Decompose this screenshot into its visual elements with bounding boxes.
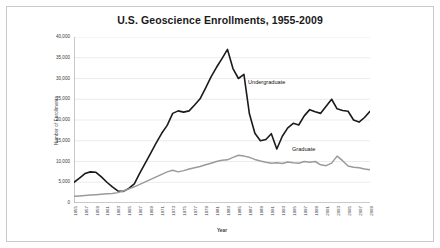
- x-tick-label: 1969: [150, 206, 154, 216]
- x-tick-label: 1981: [216, 206, 220, 216]
- y-tick-label: 30,000: [56, 76, 70, 81]
- x-tick-label: 1985: [238, 206, 242, 216]
- y-tick-label: 20,000: [56, 118, 70, 123]
- x-tick-label: 2009: [369, 206, 373, 216]
- x-tick-label: 1991: [271, 206, 275, 216]
- data-series-group: [74, 49, 370, 196]
- x-tick-label: 1999: [315, 206, 319, 216]
- plot-area: 05,00010,00015,00020,00025,00030,00035,0…: [74, 37, 370, 203]
- x-tick-label: 1995: [293, 206, 297, 216]
- y-tick-label: 0: [67, 201, 70, 206]
- x-tick-label: 2007: [358, 206, 362, 216]
- x-tick-label: 1989: [260, 206, 264, 216]
- x-tick-label: 1965: [128, 206, 132, 216]
- chart-canvas: [74, 37, 370, 203]
- x-tick-label: 1959: [95, 206, 99, 216]
- y-tick-label: 10,000: [56, 159, 70, 164]
- x-tick-label: 1987: [249, 206, 253, 216]
- x-tick-label: 2003: [337, 206, 341, 216]
- chart-title: U.S. Geoscience Enrollments, 1955-2009: [0, 14, 440, 26]
- y-tick-label: 15,000: [56, 138, 70, 143]
- y-tick-label: 25,000: [56, 97, 70, 102]
- x-axis-title: Year: [74, 228, 370, 233]
- x-tick-label: 1975: [183, 206, 187, 216]
- x-tick-label: 1967: [139, 206, 143, 216]
- x-tick-label: 2001: [326, 206, 330, 216]
- series-line-undergraduate: [74, 49, 370, 191]
- y-tick-label: 40,000: [56, 35, 70, 40]
- x-tick-label: 1993: [282, 206, 286, 216]
- y-tick-label: 35,000: [56, 55, 70, 60]
- x-tick-label: 1979: [205, 206, 209, 216]
- x-tick-label: 1997: [304, 206, 308, 216]
- x-tick-labels: 1955195719591961196319651967196919711973…: [74, 206, 370, 228]
- x-tick-label: 1971: [161, 206, 165, 216]
- x-tick-label: 1977: [194, 206, 198, 216]
- x-tick-label: 2005: [347, 206, 351, 216]
- x-tick-label: 1955: [73, 206, 77, 216]
- x-tick-label: 1983: [227, 206, 231, 216]
- series-label-graduate: Graduate: [292, 146, 315, 152]
- series-label-undergraduate: Undergraduate: [248, 79, 285, 85]
- x-tick-label: 1957: [84, 206, 88, 216]
- x-tick-label: 1963: [117, 206, 121, 216]
- chart-figure: U.S. Geoscience Enrollments, 1955-2009 N…: [0, 0, 440, 248]
- x-tick-label: 1973: [172, 206, 176, 216]
- y-tick-label: 5,000: [59, 180, 71, 185]
- x-tick-label: 1961: [106, 206, 110, 216]
